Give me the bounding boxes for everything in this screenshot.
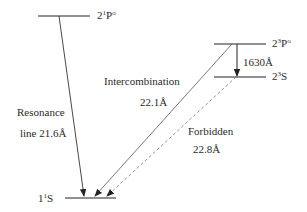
intercombination-wavelength-label: 22.1Å bbox=[140, 96, 167, 108]
resonance-wavelength-label: line 21.6Å bbox=[20, 127, 66, 139]
forbidden-wavelength-label: 22.8Å bbox=[193, 143, 220, 155]
forbidden-name-label: Forbidden bbox=[188, 125, 233, 137]
level-term: S bbox=[281, 70, 287, 82]
resonance-name-label: Resonance bbox=[17, 106, 65, 118]
level-label-2-3P-o: 23Po bbox=[272, 37, 291, 49]
level-parity: o bbox=[287, 37, 291, 45]
level-label-2-3S: 23S bbox=[272, 70, 287, 82]
intercombination-name-label: Intercombination bbox=[104, 75, 180, 87]
level-term: S bbox=[47, 192, 53, 204]
level-label-1-1S: 11S bbox=[38, 192, 53, 204]
level-label-2-1P-o: 21Po bbox=[97, 9, 116, 21]
triplet-wavelength-label: 1630Å bbox=[243, 56, 273, 68]
intercombination-arrow bbox=[95, 44, 232, 196]
level-parity: o bbox=[112, 9, 116, 17]
